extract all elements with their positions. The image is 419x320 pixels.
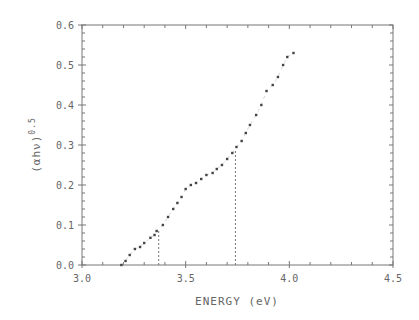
y-tick-label: 0.2: [56, 180, 74, 191]
data-point: [282, 64, 284, 66]
data-point: [255, 114, 257, 116]
data-point: [162, 224, 164, 226]
data-point: [231, 152, 233, 154]
data-point: [235, 146, 237, 148]
x-tick-label: 4.5: [384, 273, 402, 284]
data-point: [176, 202, 178, 204]
data-point: [195, 182, 197, 184]
data-point: [143, 242, 145, 244]
data-point: [128, 254, 130, 256]
data-point: [200, 178, 202, 180]
data-point: [134, 248, 136, 250]
data-point: [272, 84, 274, 86]
y-tick-label: 0.5: [56, 60, 74, 71]
plot-axes: [82, 25, 393, 265]
data-point: [139, 246, 141, 248]
data-point: [216, 168, 218, 170]
data-point: [190, 184, 192, 186]
y-tick-label: 0.6: [56, 20, 74, 31]
y-axis-label: (αhν)0.5: [28, 117, 43, 173]
y-tick-label: 0.3: [56, 140, 74, 151]
tick-labels: 3.03.54.04.50.00.10.20.30.40.50.6: [56, 20, 402, 285]
plot-frame: [82, 25, 393, 265]
chart: 3.03.54.04.50.00.10.20.30.40.50.6 ENERGY…: [0, 0, 419, 320]
data-points: [120, 52, 294, 266]
data-point: [180, 196, 182, 198]
x-tick-label: 4.0: [280, 273, 298, 284]
data-point: [240, 140, 242, 142]
data-point: [292, 52, 294, 54]
data-point: [286, 56, 288, 58]
data-point: [120, 264, 122, 266]
data-point: [226, 158, 228, 160]
data-point: [205, 174, 207, 176]
data-point: [260, 104, 262, 106]
data-point: [172, 208, 174, 210]
y-tick-label: 0.1: [56, 220, 74, 231]
data-point: [211, 172, 213, 174]
data-point: [153, 234, 155, 236]
data-point: [167, 216, 169, 218]
annotation-lines: [159, 149, 236, 265]
data-point: [249, 124, 251, 126]
y-tick-label: 0.0: [56, 260, 74, 271]
y-tick-label: 0.4: [56, 100, 74, 111]
data-point: [245, 132, 247, 134]
data-point: [149, 237, 151, 239]
x-axis-label: ENERGY (eV): [195, 295, 279, 308]
data-point: [155, 230, 157, 232]
data-point: [184, 188, 186, 190]
data-point: [277, 76, 279, 78]
data-point: [221, 164, 223, 166]
svg-text:(αhν)0.5: (αhν)0.5: [28, 117, 43, 173]
data-point: [124, 260, 126, 262]
x-tick-label: 3.5: [177, 273, 195, 284]
x-tick-label: 3.0: [73, 273, 91, 284]
data-point: [265, 90, 267, 92]
